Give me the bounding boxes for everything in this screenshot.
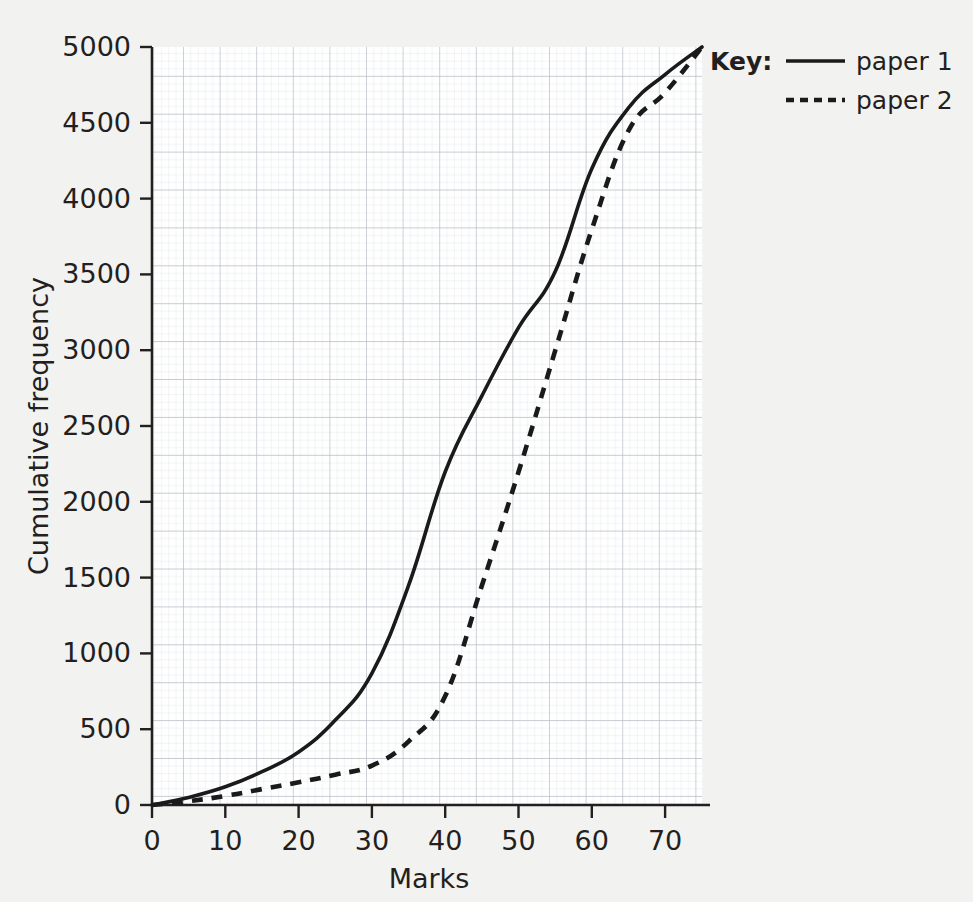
x-tick-label-70: 70 (648, 825, 682, 856)
cumulative-frequency-figure: 0 500 1000 1500 2000 2500 3000 3500 4000… (0, 0, 973, 902)
x-tick-label-60: 60 (575, 825, 609, 856)
legend-label-paper-2: paper 2 (856, 86, 953, 115)
x-tick-label-30: 30 (355, 825, 389, 856)
y-tick-label-1500: 1500 (62, 562, 131, 593)
chart-svg: 0 500 1000 1500 2000 2500 3000 3500 4000… (0, 0, 973, 902)
legend-label-paper-1: paper 1 (856, 47, 953, 76)
y-tick-label-5000: 5000 (62, 31, 131, 62)
x-tick-label-20: 20 (281, 825, 315, 856)
x-tick-label-40: 40 (428, 825, 462, 856)
plot-grid (152, 47, 702, 805)
y-tick-label-4500: 4500 (62, 107, 131, 138)
y-tick-label-2500: 2500 (62, 410, 131, 441)
x-tick-label-50: 50 (501, 825, 535, 856)
x-tick-label-10: 10 (208, 825, 242, 856)
y-tick-label-500: 500 (79, 713, 131, 744)
x-axis-title: Marks (389, 863, 470, 894)
x-tick-label-0: 0 (143, 825, 160, 856)
y-tick-label-1000: 1000 (62, 637, 131, 668)
y-tick-label-4000: 4000 (62, 183, 131, 214)
legend-title: Key: (710, 47, 772, 76)
y-tick-label-2000: 2000 (62, 486, 131, 517)
y-tick-label-3500: 3500 (62, 258, 131, 289)
y-tick-label-0: 0 (114, 789, 131, 820)
y-axis-title: Cumulative frequency (23, 277, 54, 575)
y-tick-label-3000: 3000 (62, 334, 131, 365)
